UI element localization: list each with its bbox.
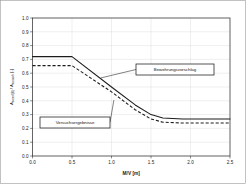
gridlines-group	[33, 18, 231, 156]
y-axis-ticks: 0.00.10.20.30.40.50.60.70.80.91.0	[22, 16, 32, 159]
x-tick-label: 1.5	[148, 160, 155, 165]
y-tick-label: 0.8	[22, 43, 29, 48]
x-axis-title: M/V [m]	[123, 171, 141, 176]
y-tick-label: 0.1	[22, 140, 29, 145]
y-axis-title: Asw,erf(B) / Asw,vorh [-]	[9, 69, 15, 105]
y-tick-label: 0.3	[22, 112, 29, 117]
chart-figure: 0.00.51.01.52.02.5 0.00.10.20.30.40.50.6…	[0, 0, 246, 184]
annotation-labels: BewehrungsvorschlagVersuchsergebnisse	[40, 64, 214, 128]
x-axis-ticks: 0.00.51.01.52.02.5	[29, 156, 233, 165]
x-tick-label: 1.0	[108, 160, 115, 165]
y-tick-label: 0.2	[22, 126, 29, 131]
annotation-leader-line	[100, 70, 136, 79]
x-tick-label: 0.0	[29, 160, 36, 165]
annotation-label: Versuchsergebnisse	[56, 120, 95, 125]
annotation-leader-line	[110, 100, 114, 122]
chart-svg: 0.00.51.01.52.02.5 0.00.10.20.30.40.50.6…	[0, 0, 246, 184]
y-tick-label: 0.6	[22, 71, 29, 76]
y-tick-label: 1.0	[22, 16, 29, 21]
y-tick-label: 0.7	[22, 57, 29, 62]
y-tick-label: 0.9	[22, 30, 29, 35]
y-tick-label: 0.0	[22, 154, 29, 159]
x-tick-label: 0.5	[69, 160, 76, 165]
x-tick-label: 2.0	[187, 160, 194, 165]
x-tick-label: 2.5	[227, 160, 234, 165]
y-tick-label: 0.5	[22, 85, 29, 90]
y-tick-label: 0.4	[22, 99, 29, 104]
annotation-label: Bewehrungsvorschlag	[154, 67, 197, 72]
